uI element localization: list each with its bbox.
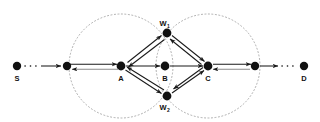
edge-a-w1 [128,36,165,68]
node-label-w1: W 1 [159,19,170,29]
node-d[interactable] [300,62,308,70]
node-a[interactable] [117,62,126,71]
node-label-a: A [118,74,124,83]
node-b[interactable] [161,62,170,71]
node-label-c: C [205,74,211,83]
node-label-d: D [301,74,307,83]
edge-n1-a [70,64,118,69]
node-c[interactable] [204,62,213,71]
node-label-w2: W 2 [159,103,170,113]
edge-a-w2 [126,67,165,94]
node-w2[interactable] [163,92,172,101]
graph-nodes [13,29,308,101]
node-label-w1-sub: 1 [167,23,170,29]
edge-w2-c [172,68,204,94]
node-n1[interactable] [63,62,71,70]
node-s[interactable] [13,62,21,70]
edge-w1-c [170,36,205,65]
node-n2[interactable] [251,62,259,70]
node-label-s: S [14,74,19,83]
diagram-canvas: S A B C D W 1 W 2 [0,0,320,122]
node-label-w2-sub: 2 [167,107,170,113]
edge-c-n2 [213,64,251,69]
node-label-b: B [162,74,168,83]
network-diagram: S A B C D W 1 W 2 [0,0,320,122]
node-w1[interactable] [163,29,172,38]
